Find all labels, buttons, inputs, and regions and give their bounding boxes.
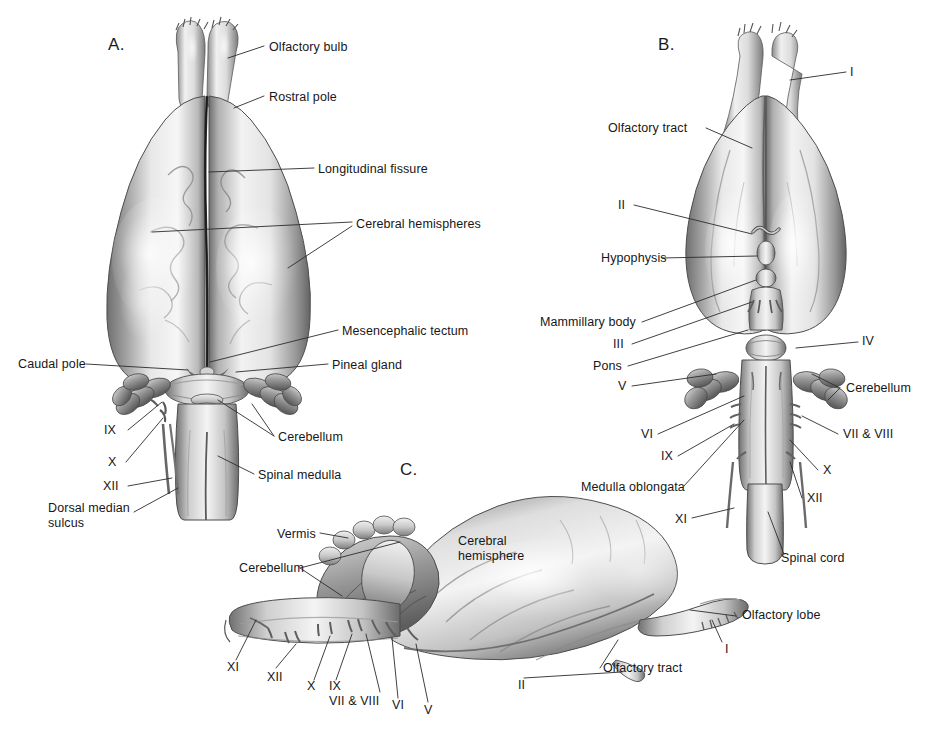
leader-a-xii xyxy=(128,478,172,486)
panel-c-artwork xyxy=(225,496,749,681)
leader-b-iv xyxy=(796,342,858,348)
label-c-nerve-v: V xyxy=(424,703,432,718)
label-c-nerve-ii: II xyxy=(518,678,525,693)
leader-c-vii-viii xyxy=(366,634,380,692)
label-a-caudal-pole: Caudal pole xyxy=(18,357,86,372)
label-c-cerebral-hemisphere-line2: hemisphere xyxy=(458,549,524,564)
label-c-vermis: Vermis xyxy=(277,527,316,542)
leader-b-x xyxy=(790,440,818,470)
label-b-olfactory-tract: Olfactory tract xyxy=(608,121,687,136)
label-c-cerebellum: Cerebellum xyxy=(239,561,304,576)
panel-letter-b: B. xyxy=(658,35,675,55)
label-a-cerebral-hemispheres: Cerebral hemispheres xyxy=(356,217,481,232)
label-c-nerve-xii: XII xyxy=(267,670,283,685)
label-a-spinal-medulla: Spinal medulla xyxy=(258,468,341,483)
label-b-nerve-x: X xyxy=(823,463,831,478)
label-c-nerve-xi: XI xyxy=(227,660,239,675)
label-a-nerve-x: X xyxy=(108,455,116,470)
leader-b-medulla-oblongata xyxy=(684,420,744,486)
label-a-nerve-xii: XII xyxy=(103,479,119,494)
label-b-nerve-ix: IX xyxy=(661,449,673,464)
panel-letter-c: C. xyxy=(400,460,418,480)
label-b-nerve-xi: XI xyxy=(675,512,687,527)
label-a-pineal-gland: Pineal gland xyxy=(332,358,402,373)
label-b-nerve-iv: IV xyxy=(862,334,874,349)
label-a-cerebellum: Cerebellum xyxy=(278,430,343,445)
label-c-cerebral-hemisphere-line1: Cerebral xyxy=(458,534,507,549)
label-c-olfactory-lobe: Olfactory lobe xyxy=(742,608,821,623)
label-b-nerve-vii-viii: VII & VIII xyxy=(843,427,893,442)
label-b-nerve-vi: VI xyxy=(641,427,653,442)
leader-b-pons xyxy=(628,330,748,366)
label-b-cerebellum: Cerebellum xyxy=(846,381,911,396)
label-b-nerve-xii: XII xyxy=(807,491,823,506)
label-b-nerve-iii: III xyxy=(613,337,624,352)
panel-b-artwork xyxy=(680,22,851,564)
leader-b-vii-viii xyxy=(802,416,838,434)
label-b-nerve-ii: II xyxy=(618,198,625,213)
leader-c-xii xyxy=(276,644,296,668)
figure-artwork xyxy=(0,0,933,742)
label-c-nerve-x: X xyxy=(307,679,315,694)
label-c-nerve-vii-viii: VII & VIII xyxy=(329,694,379,709)
label-a-nerve-ix: IX xyxy=(104,423,116,438)
leader-a-x xyxy=(126,418,163,462)
label-b-spinal-cord: Spinal cord xyxy=(781,551,845,566)
label-c-nerve-ix: IX xyxy=(329,679,341,694)
label-a-olfactory-bulb: Olfactory bulb xyxy=(269,40,348,55)
label-a-dorsal-median-sulcus: Dorsal median sulcus xyxy=(48,501,134,530)
leader-a-rostral-pole xyxy=(234,96,264,108)
leader-a-cerebellum-1 xyxy=(252,404,274,436)
label-b-mammillary-body: Mammillary body xyxy=(540,315,636,330)
label-b-nerve-i: I xyxy=(850,65,854,80)
anatomy-figure: A. B. C. Olfactory bulb Rostral pole Lon… xyxy=(0,0,933,742)
label-c-nerve-i: I xyxy=(725,642,729,657)
panel-letter-a: A. xyxy=(108,35,125,55)
label-b-pons: Pons xyxy=(593,359,622,374)
label-b-medulla-oblongata: Medulla oblongata xyxy=(581,480,685,495)
label-c-olfactory-tract: Olfactory tract xyxy=(603,661,682,676)
label-c-nerve-vi: VI xyxy=(392,698,404,713)
label-b-nerve-v: V xyxy=(618,379,626,394)
leader-a-dorsal-median-sulcus xyxy=(134,488,178,512)
label-a-mesencephalic-tectum: Mesencephalic tectum xyxy=(342,324,468,339)
label-a-longitudinal-fissure: Longitudinal fissure xyxy=(318,162,428,177)
leader-c-vi xyxy=(392,638,398,698)
label-b-hypophysis: Hypophysis xyxy=(601,251,667,266)
label-a-rostral-pole: Rostral pole xyxy=(269,90,337,105)
